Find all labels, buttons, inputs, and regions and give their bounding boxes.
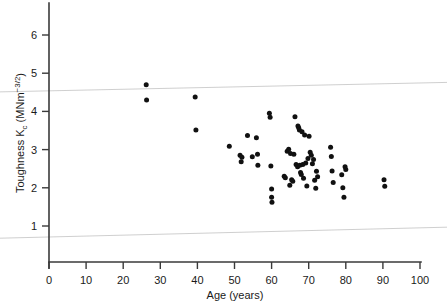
x-axis-ticks: 0102030405060708090100 [46, 262, 429, 286]
data-point [301, 176, 306, 181]
data-point [331, 180, 336, 185]
data-point [255, 163, 260, 168]
y-tick-label-2: 2 [31, 182, 37, 194]
data-point [313, 186, 318, 191]
data-point [269, 195, 274, 200]
data-point [268, 115, 273, 120]
data-point [343, 167, 348, 172]
data-point [310, 161, 315, 166]
data-point [144, 82, 149, 87]
data-point [382, 184, 387, 189]
data-point [382, 177, 387, 182]
data-point [268, 164, 273, 169]
x-tick-label-70: 70 [303, 274, 315, 286]
data-point [227, 144, 232, 149]
y-tick-label-1: 1 [31, 220, 37, 232]
x-tick-label-60: 60 [265, 274, 277, 286]
data-point [193, 128, 198, 133]
y-axis-ticks: 123456 [31, 29, 49, 232]
data-point [314, 169, 319, 174]
axes-group [49, 3, 421, 268]
data-point [269, 186, 274, 191]
x-tick-label-50: 50 [228, 274, 240, 286]
y-tick-label-5: 5 [31, 67, 37, 79]
y-axis-title-unit-open: (MNm [14, 92, 26, 125]
data-point [340, 185, 345, 190]
data-point [269, 200, 274, 205]
data-point [339, 172, 344, 177]
data-point [303, 160, 308, 165]
data-points-layer [144, 82, 388, 205]
data-point [239, 159, 244, 164]
data-point [255, 152, 260, 157]
plot-canvas: 0102030405060708090100 123456 Age (years… [0, 0, 447, 306]
x-tick-label-80: 80 [340, 274, 352, 286]
x-tick-label-20: 20 [117, 274, 129, 286]
data-point [193, 94, 198, 99]
artifact-line-bottom [0, 227, 447, 238]
y-tick-label-3: 3 [31, 144, 37, 156]
x-tick-label-0: 0 [46, 274, 52, 286]
y-axis-title-unit-close: ) [14, 73, 26, 77]
x-tick-label-40: 40 [191, 274, 203, 286]
x-tick-label-30: 30 [154, 274, 166, 286]
data-point [307, 134, 312, 139]
data-point [311, 157, 316, 162]
data-point [329, 154, 334, 159]
data-point [144, 97, 149, 102]
data-point [250, 154, 255, 159]
scatter-plot-figure: 0102030405060708090100 123456 Age (years… [0, 0, 447, 306]
data-point [254, 135, 259, 140]
data-point [283, 175, 288, 180]
x-tick-label-100: 100 [411, 274, 429, 286]
y-tick-label-6: 6 [31, 29, 37, 41]
y-tick-label-4: 4 [31, 105, 37, 117]
data-point [291, 152, 296, 157]
y-axis-title-main: Toughness K [14, 129, 26, 193]
data-point [304, 183, 309, 188]
data-point [328, 145, 333, 150]
y-axis-title-unit-exponent: −3/2 [13, 76, 22, 92]
data-point [245, 133, 250, 138]
artifact-line-top [0, 82, 447, 91]
data-point [290, 179, 295, 184]
x-tick-label-10: 10 [80, 274, 92, 286]
data-point [239, 155, 244, 160]
data-point [292, 114, 297, 119]
data-point [330, 168, 335, 173]
data-point [315, 174, 320, 179]
data-point [341, 195, 346, 200]
data-point [302, 133, 307, 138]
scan-artifact-lines [0, 82, 447, 238]
x-axis-title: Age (years) [207, 289, 264, 301]
x-tick-label-90: 90 [377, 274, 389, 286]
